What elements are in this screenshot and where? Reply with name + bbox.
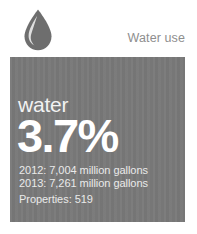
detail-line: 2012: 7,004 million gallons bbox=[19, 164, 184, 177]
card-header: Water use bbox=[0, 0, 197, 57]
card-title: Water use bbox=[128, 31, 185, 46]
detail-line: 2013: 7,261 million gallons bbox=[19, 177, 184, 190]
properties-count: Properties: 519 bbox=[19, 193, 93, 206]
metric-value: 3.7% bbox=[17, 112, 118, 160]
water-use-card: Water use water 3.7% 2012: 7,004 million… bbox=[0, 0, 197, 234]
detail-line-list: 2012: 7,004 million gallons 2013: 7,261 … bbox=[19, 164, 184, 190]
water-drop-icon bbox=[20, 8, 56, 52]
metric-panel: water 3.7% 2012: 7,004 million gallons 2… bbox=[10, 57, 185, 222]
